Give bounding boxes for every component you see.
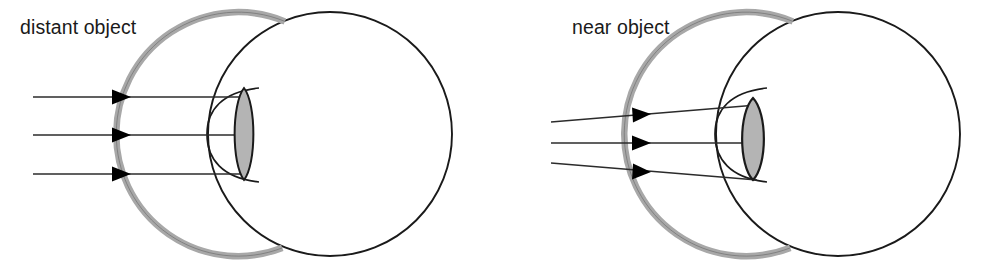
lens-near <box>742 98 764 180</box>
label-near-object: near object <box>572 16 670 38</box>
lens-distant <box>235 88 254 180</box>
diagram-canvas: distant object near object <box>0 0 988 274</box>
eye-accommodation-figure: distant object near object <box>0 0 988 274</box>
label-distant-object: distant object <box>20 16 137 38</box>
